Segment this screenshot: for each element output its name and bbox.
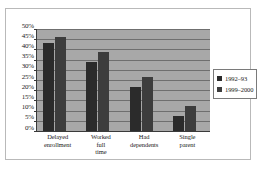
y-axis-tick-label: 15% bbox=[8, 94, 34, 101]
x-axis-category-label: Singleparent bbox=[166, 133, 209, 148]
bar bbox=[185, 106, 196, 132]
category-label-line: Had bbox=[123, 133, 166, 141]
category-label-line: Worked bbox=[79, 133, 122, 141]
y-axis-tick-mark bbox=[34, 131, 37, 132]
category-label-line: full bbox=[79, 141, 122, 149]
y-axis-tick-labels: 50%45%40%35%30%25%20%15%10%5%0% bbox=[8, 26, 34, 131]
y-axis-tick-label: 40% bbox=[8, 43, 34, 50]
legend-item: 1999–2000 bbox=[217, 84, 253, 95]
category-label-line: dependents bbox=[123, 141, 166, 149]
y-axis-tick-label: 45% bbox=[8, 33, 34, 40]
bar bbox=[43, 43, 54, 131]
x-axis-category-label: Workedfulltime bbox=[79, 133, 122, 156]
bar bbox=[173, 116, 184, 131]
y-axis-tick-label: 0% bbox=[8, 125, 34, 132]
bar-chart: 50%45%40%35%30%25%20%15%10%5%0% Delayede… bbox=[6, 9, 252, 161]
legend-swatch-icon bbox=[217, 87, 222, 92]
chart-legend: 1992–93 1999–2000 bbox=[213, 69, 257, 99]
bar-group bbox=[80, 29, 123, 131]
bar bbox=[55, 37, 66, 131]
category-label-line: parent bbox=[166, 141, 209, 149]
bar bbox=[142, 77, 153, 131]
x-axis-category-label: Haddependents bbox=[123, 133, 166, 148]
y-axis-tick-label: 5% bbox=[8, 114, 34, 121]
legend-swatch-icon bbox=[217, 76, 222, 81]
bar bbox=[130, 87, 141, 131]
chart-figure: 50%45%40%35%30%25%20%15%10%5%0% Delayede… bbox=[5, 8, 251, 160]
legend-label: 1999–2000 bbox=[225, 86, 253, 93]
y-axis-tick-label: 30% bbox=[8, 63, 34, 70]
x-axis-category-label: Delayedenrollment bbox=[36, 133, 79, 148]
category-label-line: enrollment bbox=[36, 141, 79, 149]
y-axis-tick-label: 10% bbox=[8, 104, 34, 111]
x-axis-category-labels: DelayedenrollmentWorkedfulltimeHaddepend… bbox=[36, 133, 209, 161]
y-axis-tick-label: 20% bbox=[8, 84, 34, 91]
bar-group bbox=[37, 29, 80, 131]
plot-area bbox=[36, 29, 210, 132]
legend-label: 1992–93 bbox=[225, 75, 247, 82]
y-axis-tick-label: 35% bbox=[8, 53, 34, 60]
y-axis-tick-label: 25% bbox=[8, 74, 34, 81]
bar bbox=[86, 62, 97, 131]
category-label-line: time bbox=[79, 148, 122, 156]
bar bbox=[98, 52, 109, 131]
category-label-line: Delayed bbox=[36, 133, 79, 141]
legend-item: 1992–93 bbox=[217, 73, 253, 84]
category-label-line: Single bbox=[166, 133, 209, 141]
bar-groups bbox=[37, 29, 210, 131]
y-axis-tick-label: 50% bbox=[8, 23, 34, 30]
bar-group bbox=[167, 29, 210, 131]
bar-group bbox=[124, 29, 167, 131]
